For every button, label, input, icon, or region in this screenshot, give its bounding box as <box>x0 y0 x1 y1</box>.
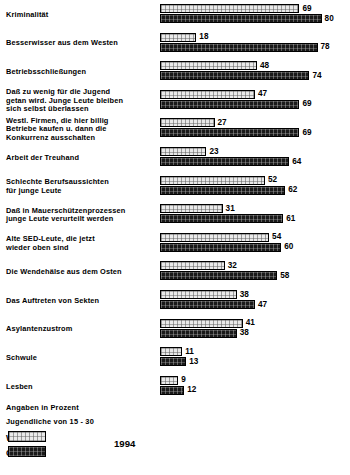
bar-row: Besserwisser aus dem Westen1878 <box>0 31 350 57</box>
bar-value-label: 32 <box>228 261 237 271</box>
bar-value-label: 31 <box>226 204 235 214</box>
bar-group: 5262 <box>160 176 350 198</box>
bar-line: 61 <box>160 214 350 223</box>
bar-row-label: Schlechte Berufsaussichten für junge Leu… <box>6 174 156 200</box>
bar-row-label: Besserwisser aus dem Westen <box>6 31 156 57</box>
bar-group: 1878 <box>160 33 350 55</box>
bar-line: 11 <box>160 347 350 356</box>
bar-line: 32 <box>160 261 350 270</box>
bar-row: Alte SED-Leute, die jetzt wieder oben si… <box>0 231 350 257</box>
bar-ost <box>160 128 299 137</box>
bar-ost <box>160 71 309 80</box>
bar-value-label: 38 <box>240 328 249 338</box>
bar-group: 3161 <box>160 204 350 226</box>
bar-value-label: 9 <box>181 375 186 385</box>
bar-value-label: 61 <box>286 214 295 224</box>
bar-line: 69 <box>160 100 350 109</box>
bar-ost <box>160 271 277 280</box>
population-note: Jugendliche von 15 - 30 <box>6 417 94 426</box>
bar-value-label: 58 <box>280 271 289 281</box>
bar-west <box>160 118 215 127</box>
bar-row: Asylantenzustrom4138 <box>0 317 350 343</box>
bar-row-label: Daß in Mauerschützenprozessen junge Leut… <box>6 202 156 228</box>
legend-swatch-ost <box>8 446 46 457</box>
bar-west <box>160 90 255 99</box>
bar-line: 64 <box>160 157 350 166</box>
bar-ost <box>160 214 283 223</box>
bar-row: Schwule1113 <box>0 345 350 371</box>
bar-line: 54 <box>160 233 350 242</box>
bar-line: 12 <box>160 386 350 395</box>
bar-row-label: Das Auftreten von Sekten <box>6 288 156 314</box>
bar-west <box>160 4 299 13</box>
bar-west <box>160 347 182 356</box>
bar-value-label: 18 <box>199 32 208 42</box>
bar-group: 4769 <box>160 90 350 112</box>
bar-value-label: 78 <box>321 42 330 52</box>
bar-value-label: 13 <box>189 357 198 367</box>
bar-value-label: 54 <box>272 232 281 242</box>
unit-note: Angaben in Prozent <box>6 403 79 412</box>
bar-value-label: 52 <box>268 175 277 185</box>
bar-value-label: 38 <box>240 290 249 300</box>
legend-item-west: West <box>6 431 40 444</box>
bar-west <box>160 147 206 156</box>
bar-line: 38 <box>160 290 350 299</box>
bar-line: 48 <box>160 61 350 70</box>
bar-row-label: Arbeit der Treuhand <box>6 145 156 171</box>
bar-value-label: 12 <box>187 385 196 395</box>
bar-ost <box>160 186 285 195</box>
bar-row-label: Westl. Firmen, die hier billig Betriebe … <box>6 116 156 142</box>
bar-west <box>160 204 223 213</box>
bar-line: 60 <box>160 243 350 252</box>
bar-value-label: 69 <box>302 4 311 14</box>
bar-ost <box>160 329 237 338</box>
bar-line: 47 <box>160 90 350 99</box>
bar-value-label: 23 <box>209 147 218 157</box>
bar-value-label: 69 <box>302 128 311 138</box>
bar-line: 31 <box>160 204 350 213</box>
bar-line: 78 <box>160 43 350 52</box>
bar-group: 3847 <box>160 290 350 312</box>
bar-value-label: 64 <box>292 157 301 167</box>
bar-group: 2769 <box>160 118 350 140</box>
bar-group: 6980 <box>160 4 350 26</box>
bar-value-label: 69 <box>302 99 311 109</box>
bar-value-label: 27 <box>218 118 227 128</box>
bar-ost <box>160 157 289 166</box>
bar-ost <box>160 386 184 395</box>
bar-line: 38 <box>160 329 350 338</box>
bar-group: 4138 <box>160 319 350 341</box>
bar-west <box>160 233 269 242</box>
bar-west <box>160 33 196 42</box>
bar-value-label: 80 <box>325 14 334 24</box>
legend-swatch-west <box>8 431 46 442</box>
bar-row: Daß zu wenig für die Jugend getan wird. … <box>0 88 350 114</box>
bar-ost <box>160 43 318 52</box>
bar-ost <box>160 300 255 309</box>
bar-row: Schlechte Berufsaussichten für junge Leu… <box>0 174 350 200</box>
bar-row-label: Daß zu wenig für die Jugend getan wird. … <box>6 88 156 114</box>
bar-line: 52 <box>160 176 350 185</box>
bar-west <box>160 319 243 328</box>
bar-value-label: 47 <box>258 300 267 310</box>
bar-ost <box>160 243 281 252</box>
bar-value-label: 60 <box>284 242 293 252</box>
bar-row: Daß in Mauerschützenprozessen junge Leut… <box>0 202 350 228</box>
bar-row: Lesben912 <box>0 374 350 400</box>
bar-ost <box>160 14 322 23</box>
legend-year: 1994 <box>114 438 135 449</box>
bar-line: 47 <box>160 300 350 309</box>
bar-value-label: 48 <box>260 61 269 71</box>
bar-value-label: 47 <box>258 89 267 99</box>
bar-row-label: Kriminalität <box>6 2 156 28</box>
bar-group: 912 <box>160 376 350 398</box>
bar-line: 27 <box>160 118 350 127</box>
bar-value-label: 74 <box>312 71 321 81</box>
bar-ost <box>160 357 186 366</box>
bar-row: Arbeit der Treuhand2364 <box>0 145 350 171</box>
bar-west <box>160 176 265 185</box>
bar-line: 80 <box>160 14 350 23</box>
legend-item-ost: Ost <box>6 446 40 459</box>
bar-row-label: Asylantenzustrom <box>6 317 156 343</box>
